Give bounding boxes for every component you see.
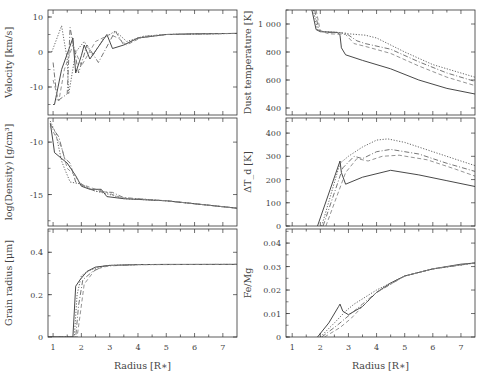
y-tick-label: 0 bbox=[276, 222, 281, 231]
series-model-2 bbox=[50, 121, 237, 208]
series-group bbox=[48, 264, 237, 337]
series-group bbox=[318, 263, 476, 337]
panel-top-right: 1 000800600400Dust temperature [K] bbox=[242, 10, 475, 115]
series-model-4 bbox=[325, 263, 476, 337]
y-axis-label: Dust temperature [K] bbox=[242, 11, 253, 114]
x-tick-label: 1 bbox=[51, 343, 56, 352]
figure: 100-10Velocity [km/s]-10-15log(Density) … bbox=[0, 0, 484, 379]
y-tick-label: 0.01 bbox=[263, 310, 281, 319]
series-model-4 bbox=[50, 126, 237, 208]
series-model-1 bbox=[318, 263, 476, 337]
series-model-2 bbox=[48, 264, 237, 337]
series-model-2 bbox=[313, 10, 475, 77]
y-tick-label: 300 bbox=[266, 152, 281, 161]
y-tick-label: 10 bbox=[33, 13, 43, 22]
y-tick-label: 400 bbox=[266, 104, 281, 113]
x-tick-label: 2 bbox=[79, 343, 84, 352]
y-axis-label: log(Density) [g/cm³] bbox=[3, 124, 14, 221]
series-model-4 bbox=[53, 33, 237, 101]
panel-bottom-left: 00.20.41234567Radius [R∗]Grain radius [μ… bbox=[3, 229, 237, 371]
y-tick-label: 0 bbox=[38, 48, 43, 57]
panel-middle-left: -10-15log(Density) [g/cm³] bbox=[3, 118, 237, 226]
series-model-1 bbox=[53, 33, 237, 104]
y-tick-label: -15 bbox=[30, 191, 43, 200]
series-group bbox=[312, 10, 475, 94]
x-tick-label: 5 bbox=[402, 343, 407, 352]
x-tick-label: 6 bbox=[192, 343, 197, 352]
series-model-3 bbox=[50, 124, 237, 208]
y-tick-label: 0.4 bbox=[30, 248, 43, 257]
plot-frame bbox=[286, 118, 475, 226]
series-group bbox=[50, 121, 237, 208]
y-tick-label: 0.2 bbox=[30, 291, 43, 300]
y-tick-label: 600 bbox=[266, 76, 281, 85]
series-model-1 bbox=[312, 10, 475, 94]
series-group bbox=[318, 139, 476, 226]
x-tick-label: 4 bbox=[135, 343, 140, 352]
y-axis-label: ΔT_d [K] bbox=[242, 151, 254, 193]
y-tick-label: 0.02 bbox=[263, 286, 281, 295]
panel-middle-right: 0100200300400ΔT_d [K] bbox=[242, 118, 475, 231]
x-tick-label: 3 bbox=[346, 343, 351, 352]
series-model-1 bbox=[50, 123, 237, 208]
y-axis-label: Grain radius [μm] bbox=[3, 240, 14, 326]
y-tick-label: 0.03 bbox=[263, 263, 281, 272]
series-model-3 bbox=[322, 263, 475, 337]
x-tick-label: 5 bbox=[164, 343, 169, 352]
x-axis-label: Radius [R∗] bbox=[114, 360, 171, 371]
plot-frame bbox=[48, 118, 237, 226]
x-tick-label: 7 bbox=[458, 343, 463, 352]
y-tick-label: 0.04 bbox=[263, 239, 281, 248]
series-model-2 bbox=[320, 263, 475, 337]
series-model-4 bbox=[326, 155, 475, 226]
y-tick-label: 0 bbox=[276, 333, 281, 342]
x-tick-label: 3 bbox=[107, 343, 112, 352]
y-tick-label: 0 bbox=[38, 333, 43, 342]
x-tick-label: 6 bbox=[430, 343, 435, 352]
x-axis-label: Radius [R∗] bbox=[352, 360, 409, 371]
series-model-1 bbox=[318, 161, 476, 226]
y-tick-label: 1 000 bbox=[258, 20, 281, 29]
y-tick-label: -10 bbox=[30, 138, 43, 147]
y-tick-label: -10 bbox=[30, 83, 43, 92]
y-axis-label: Velocity [km/s] bbox=[3, 27, 14, 99]
panel-bottom-right: 00.010.020.030.041234567Radius [R∗]Fe/Mg bbox=[242, 229, 475, 371]
y-tick-label: 400 bbox=[266, 129, 281, 138]
plot-frame bbox=[48, 229, 237, 337]
plot-frame bbox=[286, 10, 475, 115]
y-tick-label: 200 bbox=[266, 176, 281, 185]
x-tick-label: 4 bbox=[374, 343, 379, 352]
x-tick-label: 2 bbox=[318, 343, 323, 352]
x-tick-label: 1 bbox=[290, 343, 295, 352]
y-axis-label: Fe/Mg bbox=[242, 268, 253, 299]
panel-top-left: 100-10Velocity [km/s] bbox=[3, 10, 237, 115]
series-group bbox=[52, 26, 237, 105]
x-tick-label: 7 bbox=[220, 343, 225, 352]
plot-frame bbox=[286, 229, 475, 337]
series-model-3 bbox=[323, 149, 475, 226]
y-tick-label: 800 bbox=[266, 48, 281, 57]
y-tick-label: 100 bbox=[266, 199, 281, 208]
